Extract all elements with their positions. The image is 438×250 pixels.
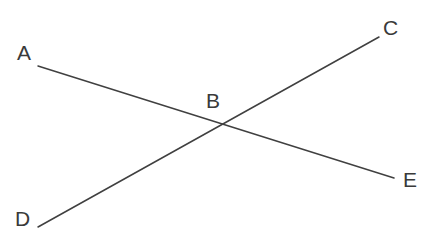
line-segment-dc (38, 37, 379, 227)
point-label-c: C (383, 17, 398, 38)
point-label-a: A (17, 42, 31, 63)
point-label-e: E (403, 169, 417, 190)
diagram-canvas (0, 0, 438, 250)
line-segment-ae (38, 66, 394, 178)
geometry-diagram: A B C D E (0, 0, 438, 250)
point-label-d: D (15, 208, 30, 229)
point-label-b: B (206, 90, 220, 111)
